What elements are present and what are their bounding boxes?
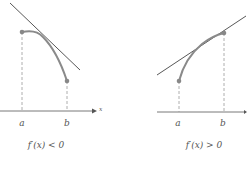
caption: f′(x) > 0	[185, 140, 223, 150]
curve	[22, 31, 67, 81]
label-b: b	[64, 118, 70, 128]
label-b: b	[220, 118, 226, 128]
curve	[179, 33, 224, 81]
x-axis-label: x	[99, 105, 103, 112]
point-a	[20, 30, 25, 35]
label-a: a	[175, 118, 180, 128]
point-a	[177, 79, 182, 84]
point-b	[65, 79, 70, 84]
tangent-line	[10, 3, 80, 70]
x-axis-arrow-icon	[244, 110, 247, 114]
derivative-sign-diagram: x a b f′(x) < 0 a b f′(x) > 0	[0, 0, 247, 169]
caption: f′(x) < 0	[27, 140, 65, 150]
panel-decreasing: x a b f′(x) < 0	[0, 3, 103, 150]
panel-increasing: a b f′(x) > 0	[157, 16, 247, 150]
x-axis-arrow-icon	[92, 109, 97, 114]
label-a: a	[19, 118, 24, 128]
point-b	[222, 31, 227, 36]
